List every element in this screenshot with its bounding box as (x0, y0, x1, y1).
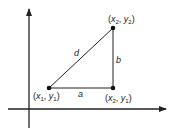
point-x1-y1 (47, 86, 52, 91)
label-point-x1-y1: (x1, y1) (33, 91, 60, 102)
segment-d (49, 28, 113, 88)
point-x2-y1 (111, 86, 116, 91)
label-point-x2-y2: (x2, y2) (108, 14, 135, 25)
point-x2-y2 (111, 26, 116, 31)
distance-diagram: d a b (x1, y1) (x2, y1) (x2, y2) (0, 0, 172, 133)
label-b: b (116, 55, 121, 65)
label-d: d (74, 48, 80, 58)
label-point-x2-y1: (x2, y1) (105, 93, 132, 104)
label-a: a (78, 89, 83, 99)
